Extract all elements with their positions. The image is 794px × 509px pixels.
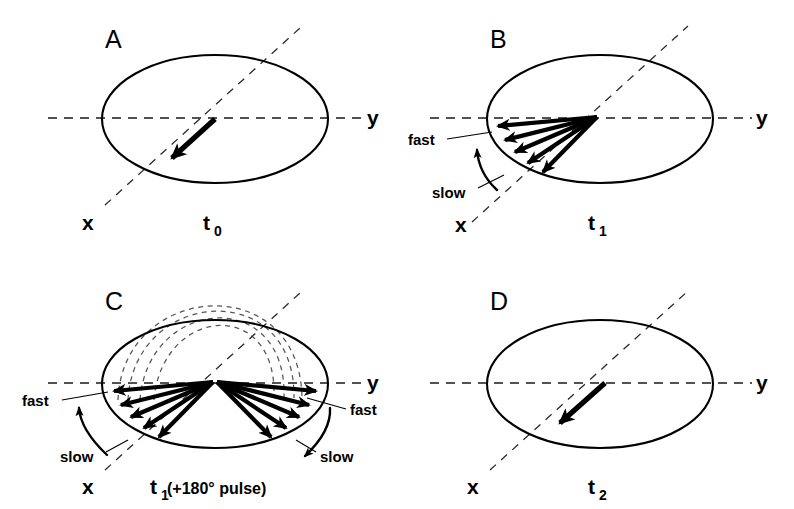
panel-c-arc-4 [154, 325, 274, 400]
panel-c-left-fast-leader [62, 392, 108, 400]
panel-b-fast-label: fast [408, 131, 435, 148]
panel-a-letter: A [105, 25, 122, 53]
panel-b-time-label: t [588, 211, 595, 234]
panel-b-ellipse [487, 55, 713, 183]
panel-d-letter: D [490, 287, 508, 315]
panel-c-x-label: x [82, 475, 94, 498]
panel-c-left-slow-label: slow [60, 448, 94, 465]
panel-c-ellipse [102, 320, 328, 448]
panel-d: D y x t 2 [430, 287, 768, 503]
panel-a-y-label: y [367, 106, 379, 129]
panel-c-y-label: y [367, 371, 379, 394]
panel-b: B fast slow y x t 1 [408, 25, 768, 239]
panel-b-x-label: x [455, 213, 467, 236]
panel-c-right-slow-label: slow [320, 448, 354, 465]
panel-a: A y x t 0 [48, 25, 379, 239]
panel-b-letter: B [490, 25, 507, 53]
panel-d-magnetization-vector [560, 383, 605, 423]
panel-d-y-label: y [756, 371, 768, 394]
panel-c-right-fast-leader [307, 398, 346, 409]
panel-c-pulse-suffix: (+180° pulse) [167, 480, 266, 497]
panel-a-magnetization-vector [172, 119, 215, 158]
panel-a-x-label: x [82, 211, 94, 234]
panel-a-time-subscript: 0 [214, 223, 222, 239]
panel-c-left-slow-leader [106, 440, 128, 452]
panel-d-x-label: x [467, 475, 479, 498]
panel-b-y-label: y [756, 106, 768, 129]
figure-canvas: A y x t 0 B [0, 0, 794, 509]
panel-b-slow-label: slow [432, 184, 466, 201]
panel-c-letter: C [105, 287, 123, 315]
panel-d-time-label: t [588, 475, 595, 498]
panel-c: C [22, 287, 379, 503]
panel-b-vector-fan [498, 117, 597, 172]
panel-b-slow-leader [478, 175, 504, 188]
panel-c-right-fast-label: fast [350, 401, 377, 418]
panel-b-fast-leader [447, 132, 492, 139]
panel-a-time-label: t [203, 211, 210, 234]
panel-d-x-axis [490, 291, 688, 470]
panel-c-left-fast-label: fast [22, 392, 49, 409]
panel-c-vector-fan-left [114, 382, 213, 437]
spin-echo-figure: A y x t 0 B [0, 0, 794, 509]
panel-d-time-subscript: 2 [599, 487, 607, 503]
panel-c-vector-fan-right [217, 382, 316, 437]
panel-b-time-subscript: 1 [599, 223, 607, 239]
panel-c-time-label: t [150, 475, 157, 498]
